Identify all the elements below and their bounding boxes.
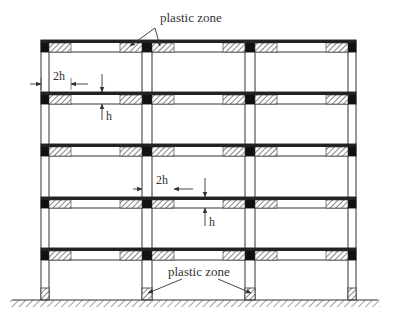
joint-floor-5-col-4 [348, 251, 356, 260]
beam-plastic-hinge-right-floor-5-bay-1 [120, 251, 142, 260]
beam-plastic-hinge-right-floor-1-bay-3 [326, 43, 348, 52]
beam-plastic-hinge-right-floor-2-bay-3 [326, 95, 348, 104]
beam-plastic-hinge-left-floor-4-bay-2 [152, 200, 174, 208]
dim-2h-top-label: 2h [53, 69, 65, 83]
beam-plastic-hinge-left-floor-3-bay-2 [152, 147, 174, 156]
joint-floor-1-col-3 [245, 43, 255, 52]
joint-floor-2-col-3 [245, 95, 255, 104]
column-base-plastic-hinge-2 [142, 288, 152, 300]
column-base-plastic-hinge-1 [41, 288, 49, 300]
joint-floor-2-col-4 [348, 95, 356, 104]
slab-floor-5 [41, 248, 356, 251]
joint-floor-1-col-2 [142, 43, 152, 52]
beam-plastic-hinge-left-floor-5-bay-2 [152, 251, 174, 260]
slab-floor-1 [41, 40, 356, 43]
plastic-zone-bottom-label: plastic zone [168, 264, 230, 279]
beam-plastic-hinge-right-floor-1-bay-2 [223, 43, 245, 52]
beam-plastic-hinge-right-floor-5-bay-3 [326, 251, 348, 260]
joint-floor-2-col-2 [142, 95, 152, 104]
joint-floor-1-col-1 [41, 43, 49, 52]
column-base-plastic-hinge-3 [245, 288, 255, 300]
joint-floor-5-col-1 [41, 251, 49, 260]
dim-2h-mid-label: 2h [156, 173, 168, 187]
slab-floor-2 [41, 92, 356, 95]
beam-plastic-hinge-right-floor-2-bay-1 [120, 95, 142, 104]
beam-plastic-hinge-right-floor-4-bay-2 [223, 200, 245, 208]
frame-structure [41, 40, 356, 300]
beam-plastic-hinge-right-floor-3-bay-2 [223, 147, 245, 156]
beam-plastic-hinge-left-floor-1-bay-1 [49, 43, 71, 52]
beam-plastic-hinge-left-floor-4-bay-1 [49, 200, 71, 208]
column-base-plastic-hinge-4 [348, 288, 356, 300]
joint-floor-3-col-2 [142, 147, 152, 156]
plastic-zone-top-label: plastic zone [160, 10, 222, 25]
joint-floor-4-col-4 [348, 200, 356, 208]
joint-floor-3-col-1 [41, 147, 49, 156]
beam-plastic-hinge-left-floor-2-bay-1 [49, 95, 71, 104]
beam-plastic-hinge-left-floor-3-bay-3 [255, 147, 277, 156]
dim-h-top-label: h [106, 109, 112, 123]
beam-plastic-hinge-right-floor-4-bay-1 [120, 200, 142, 208]
ground [10, 300, 380, 307]
beam-plastic-hinge-right-floor-1-bay-1 [120, 43, 142, 52]
beam-plastic-hinge-left-floor-2-bay-2 [152, 95, 174, 104]
joint-floor-1-col-4 [348, 43, 356, 52]
slab-floor-4 [41, 197, 356, 200]
beam-plastic-hinge-right-floor-4-bay-3 [326, 200, 348, 208]
joint-floor-5-col-2 [142, 251, 152, 260]
beam-plastic-hinge-left-floor-2-bay-3 [255, 95, 277, 104]
plastic-zone-bottom-callout: plastic zone [148, 264, 251, 293]
beam-plastic-hinge-left-floor-1-bay-3 [255, 43, 277, 52]
joint-floor-4-col-3 [245, 200, 255, 208]
joint-floor-3-col-4 [348, 147, 356, 156]
beam-plastic-hinge-right-floor-5-bay-2 [223, 251, 245, 260]
joint-floor-4-col-2 [142, 200, 152, 208]
joint-floor-4-col-1 [41, 200, 49, 208]
beam-plastic-hinge-left-floor-3-bay-1 [49, 147, 71, 156]
joint-floor-3-col-3 [245, 147, 255, 156]
beam-plastic-hinge-left-floor-1-bay-2 [152, 43, 174, 52]
beam-plastic-hinge-right-floor-3-bay-1 [120, 147, 142, 156]
beam-plastic-hinge-left-floor-5-bay-1 [49, 251, 71, 260]
beam-plastic-hinge-left-floor-5-bay-3 [255, 251, 277, 260]
beam-plastic-hinge-right-floor-3-bay-3 [326, 147, 348, 156]
slab-floor-3 [41, 144, 356, 147]
dim-h-mid-label: h [209, 215, 215, 229]
joint-floor-5-col-3 [245, 251, 255, 260]
joint-floor-2-col-1 [41, 95, 49, 104]
beam-plastic-hinge-left-floor-4-bay-3 [255, 200, 277, 208]
beam-plastic-hinge-right-floor-2-bay-2 [223, 95, 245, 104]
frame-diagram: plastic zone 2h h 2h h plastic zone [0, 0, 395, 324]
